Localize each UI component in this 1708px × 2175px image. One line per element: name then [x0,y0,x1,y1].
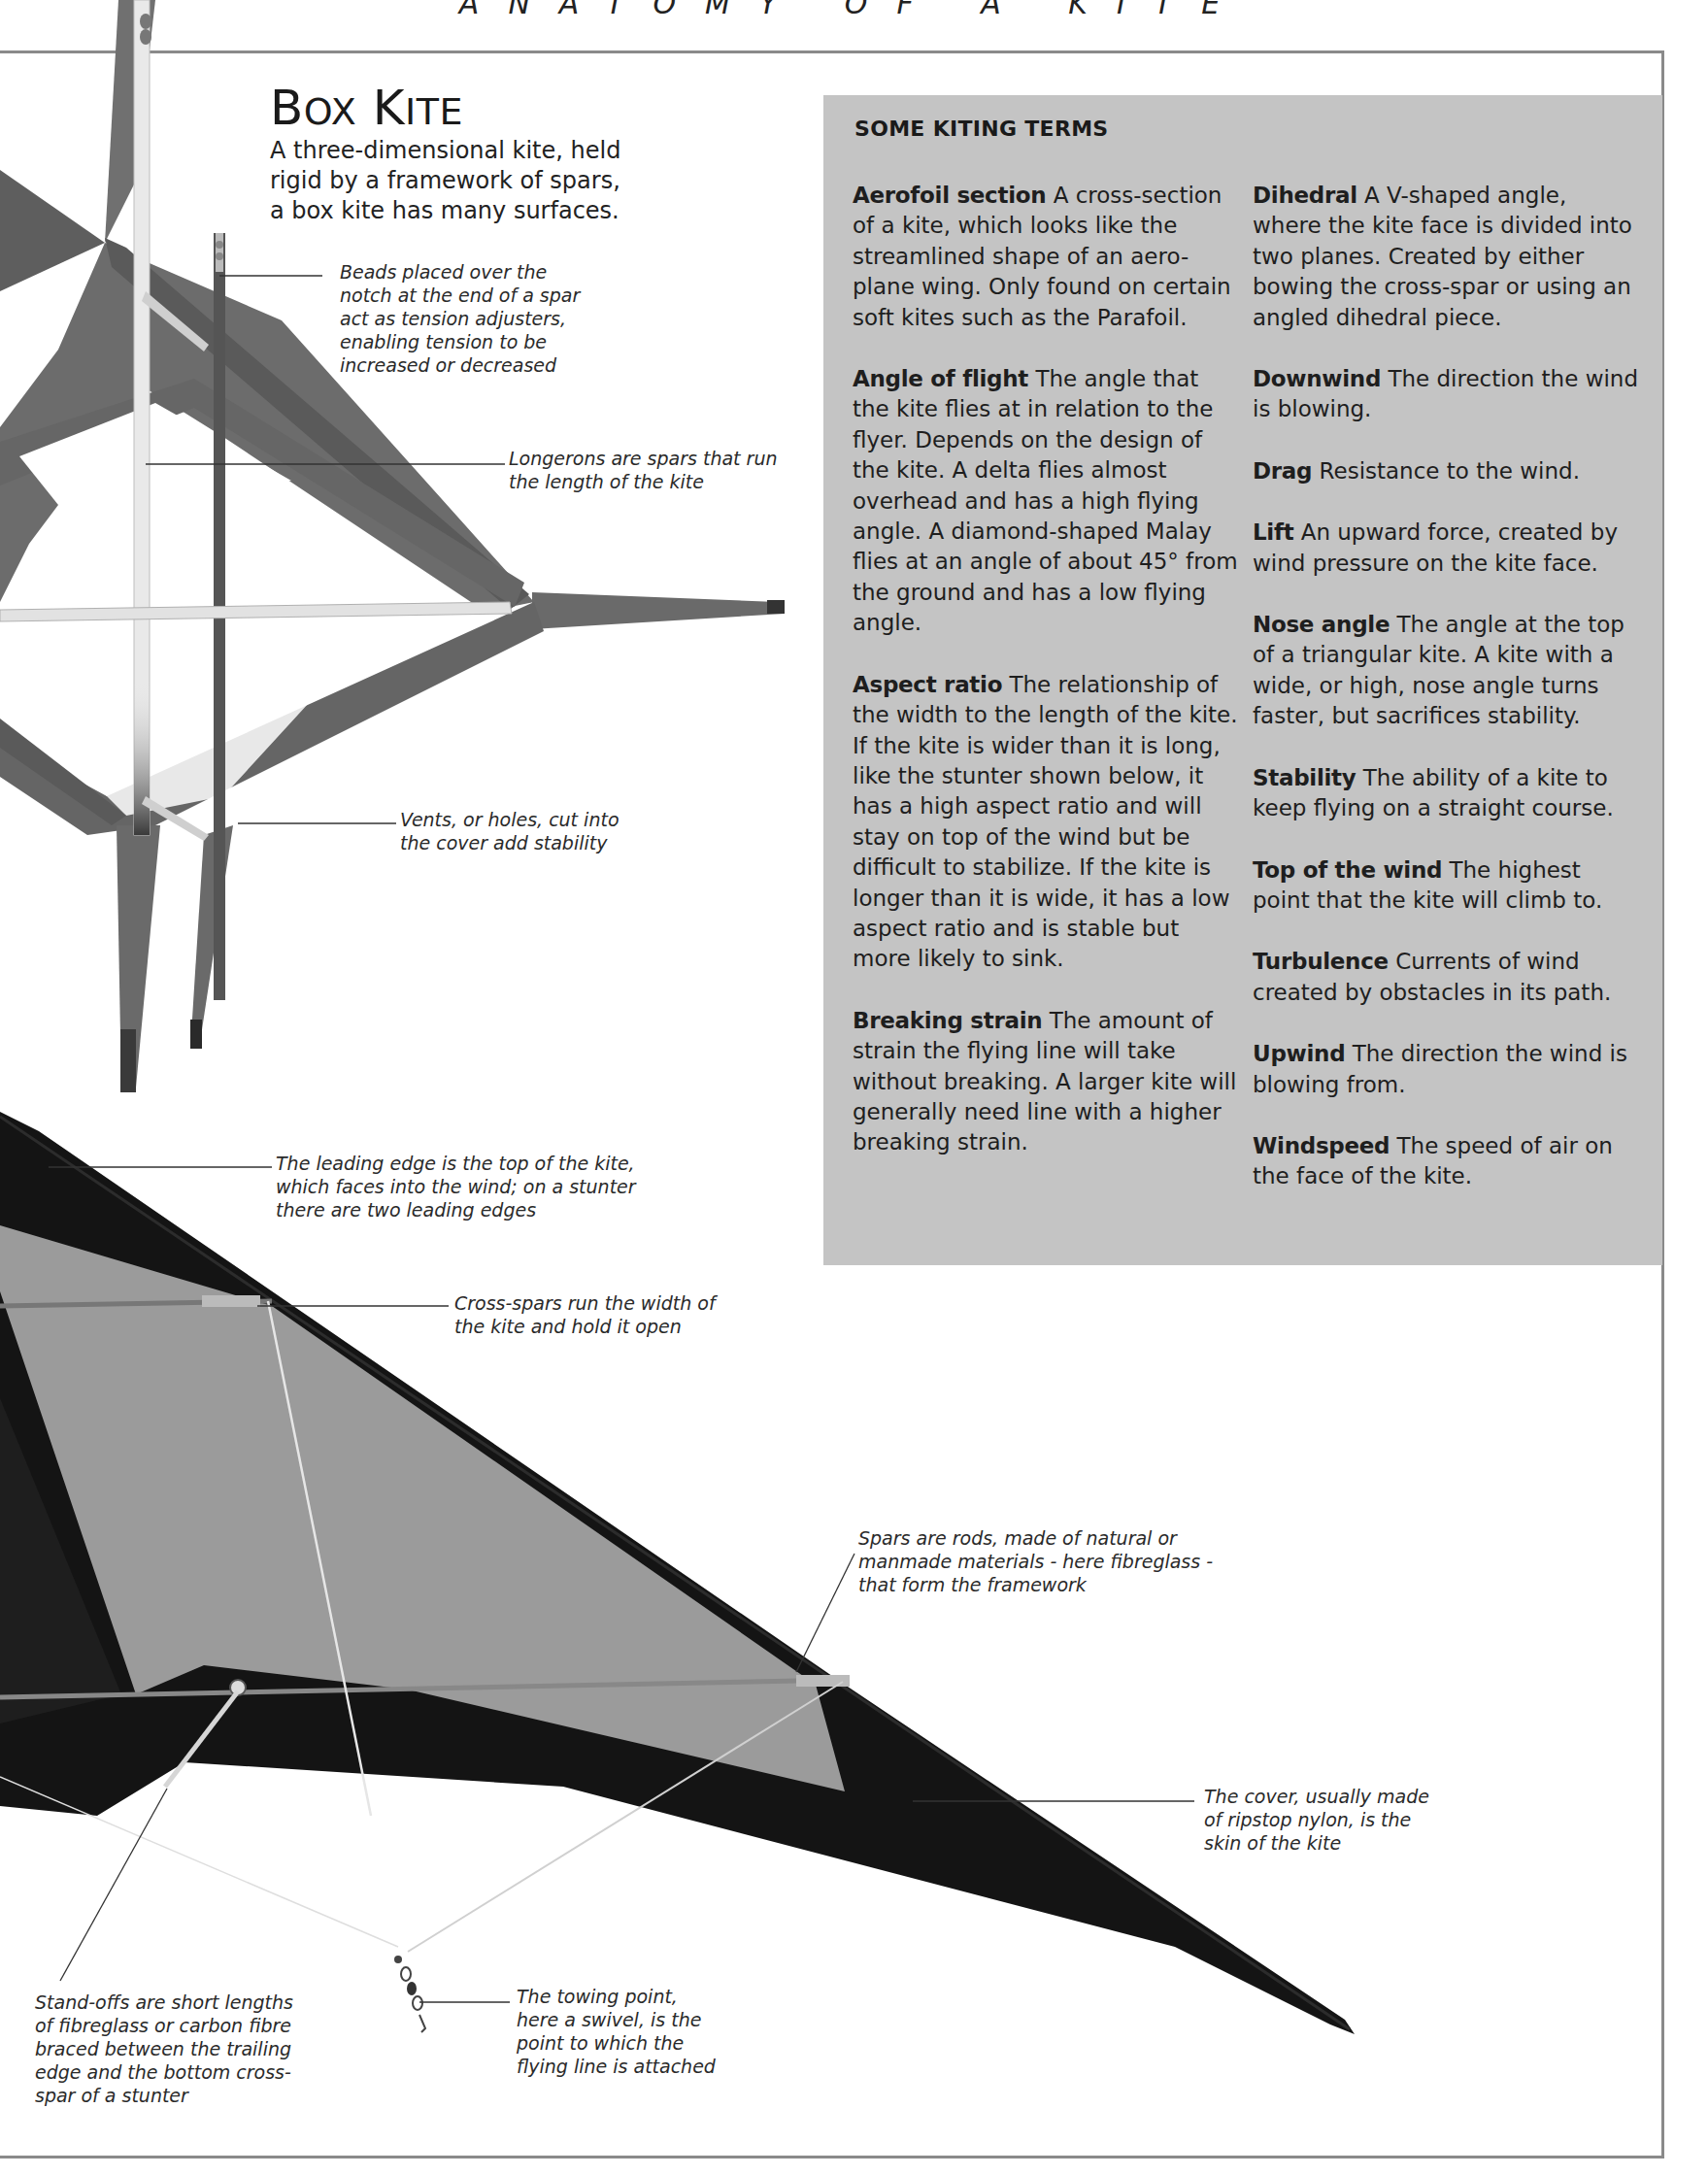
box-kite-description: A three-dimensional kite, held rigid by … [270,136,639,226]
callout-cross-spars: Cross-spars run the width of the kite an… [454,1291,736,1338]
callout-stand-offs: Stand-offs are short lengths of fibregla… [35,1991,307,2107]
kiting-terms-box: SOME KITING TERMS Aerofoil section A cro… [823,95,1662,1265]
callout-longerons: Longerons are spars that run the length … [509,447,781,493]
term-entry: Angle of flight The angle that the kite … [853,364,1241,639]
term-entry: Stability The ability of a kite to keep … [1253,763,1641,824]
term-entry: Lift An upward force, created by wind pr… [1253,518,1641,579]
term-entry: Downwind The direction the wind is blowi… [1253,364,1641,425]
term-entry: Drag Resistance to the wind. [1253,456,1641,486]
callout-towing-point: The towing point, here a swivel, is the … [517,1985,720,2078]
term-entry: Aspect ratio The relationship of the wid… [853,670,1241,975]
term-entry: Top of the wind The highest point that t… [1253,855,1641,917]
callout-beads: Beads placed over the notch at the end o… [340,260,602,377]
term-entry: Dihedral A V-shaped angle, where the kit… [1253,181,1641,333]
callout-vents: Vents, or holes, cut into the cover add … [400,808,633,854]
term-entry: Aerofoil section A cross-section of a ki… [853,181,1241,333]
callout-cover: The cover, usually made of ripstop nylon… [1204,1785,1437,1855]
kiting-terms-right-column: Dihedral A V-shaped angle, where the kit… [1253,181,1641,1223]
kiting-terms-left-column: Aerofoil section A cross-section of a ki… [853,181,1241,1189]
kiting-terms-heading: SOME KITING TERMS [854,117,1109,141]
term-entry: Upwind The direction the wind is blowing… [1253,1039,1641,1100]
box-kite-title: BOX KITE [270,80,463,136]
term-entry: Breaking strain The amount of strain the… [853,1006,1241,1158]
term-entry: Nose angle The angle at the top of a tri… [1253,610,1641,732]
callout-leading-edge: The leading edge is the top of the kite,… [276,1152,645,1221]
term-entry: Windspeed The speed of air on the face o… [1253,1131,1641,1192]
swivel [394,1956,425,2032]
term-entry: Turbulence Currents of wind created by o… [1253,947,1641,1008]
callout-spars: Spars are rods, made of natural or manma… [858,1526,1218,1596]
